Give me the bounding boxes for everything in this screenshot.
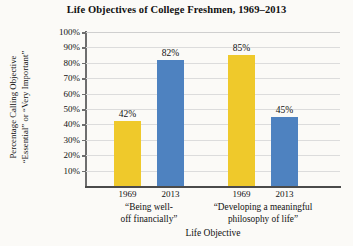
y-tick-label: 50% <box>64 105 81 114</box>
y-tick-label: 80% <box>64 58 81 67</box>
gridline <box>86 32 340 33</box>
bar-value-label: 82% <box>162 48 179 58</box>
y-tick-label: 40% <box>64 120 81 129</box>
x-tick-label: 2013 <box>271 189 298 199</box>
x-tick-label: 2013 <box>157 189 184 199</box>
gridline <box>86 78 340 79</box>
gridline <box>86 94 340 95</box>
bar-value-label: 42% <box>119 109 136 119</box>
x-axis-title: Life Objective <box>86 228 340 238</box>
y-axis-title-line-1: Percentage Calling Objective <box>8 51 20 164</box>
y-tick-mark <box>82 63 86 65</box>
gridline <box>86 63 340 64</box>
bar-value-label: 45% <box>276 105 293 115</box>
bar-chart: Life Objectives of College Freshmen, 196… <box>0 0 353 246</box>
y-tick-mark <box>82 140 86 142</box>
x-group-label-line: “Being well- <box>103 202 195 214</box>
x-group-label: “Being well-off financially” <box>103 202 195 225</box>
x-group-label-line: philosophy of life” <box>193 214 333 226</box>
bar[interactable]: 82% <box>157 60 184 186</box>
x-group-label-line: “Developing a meaningful <box>193 202 333 214</box>
plot-area: 100%90%80%70%60%50%40%30%20%10%42%82%85%… <box>86 32 340 186</box>
x-axis-spine <box>85 186 341 188</box>
y-tick-label: 30% <box>64 135 81 144</box>
y-tick-label: 10% <box>64 166 81 175</box>
bar[interactable]: 45% <box>271 117 298 186</box>
y-tick-mark <box>82 32 86 34</box>
y-tick-mark <box>82 155 86 157</box>
chart-title: Life Objectives of College Freshmen, 196… <box>0 4 353 15</box>
y-tick-mark <box>82 78 86 80</box>
y-tick-label: 90% <box>64 43 81 52</box>
y-tick-mark <box>82 94 86 96</box>
x-tick-label: 1969 <box>114 189 141 199</box>
y-tick-label: 20% <box>64 151 81 160</box>
x-group-label-line: off financially” <box>103 214 195 226</box>
bar[interactable]: 42% <box>114 121 141 186</box>
bar-value-label: 85% <box>233 43 250 53</box>
y-tick-mark <box>82 171 86 173</box>
y-tick-label: 70% <box>64 74 81 83</box>
y-axis-title: Percentage Calling Objective “Essential”… <box>2 22 36 192</box>
x-group-label: “Developing a meaningfulphilosophy of li… <box>193 202 333 225</box>
y-tick-mark <box>82 109 86 111</box>
y-tick-mark <box>82 47 86 49</box>
y-axis-title-line-2: “Essential” or “Very Important” <box>19 51 31 164</box>
y-tick-mark <box>82 124 86 126</box>
x-tick-label: 1969 <box>228 189 255 199</box>
bar[interactable]: 85% <box>228 55 255 186</box>
y-tick-label: 100% <box>59 28 80 37</box>
y-tick-label: 60% <box>64 89 81 98</box>
gridline <box>86 47 340 48</box>
